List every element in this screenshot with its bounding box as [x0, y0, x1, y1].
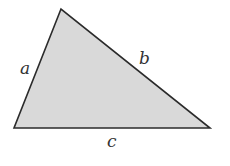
triangle-diagram: a b c [0, 0, 230, 166]
side-label-a: a [20, 58, 30, 78]
side-label-b: b [139, 48, 150, 68]
side-label-c: c [107, 131, 117, 151]
triangle-shape [14, 9, 210, 128]
